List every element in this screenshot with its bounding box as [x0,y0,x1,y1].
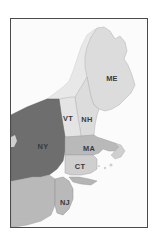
state-label-ma: MA [83,144,95,153]
island-dot-1 [109,163,112,166]
state-label-nj: NJ [60,198,70,207]
state-label-nh: NH [81,115,92,124]
state-shape-ny[interactable] [11,99,65,181]
state-label-ct: CT [75,162,86,171]
map-figure: ME VT NH MA CT NY NJ [0,0,158,244]
state-label-me: ME [106,74,118,83]
state-label-ny: NY [38,142,49,151]
island-dot-2 [104,167,106,169]
island-dot-3 [98,165,100,167]
map-frame: ME VT NH MA CT NY NJ [10,18,148,228]
state-label-vt: VT [63,114,73,123]
northeast-us-map[interactable]: ME VT NH MA CT NY NJ [11,19,147,227]
